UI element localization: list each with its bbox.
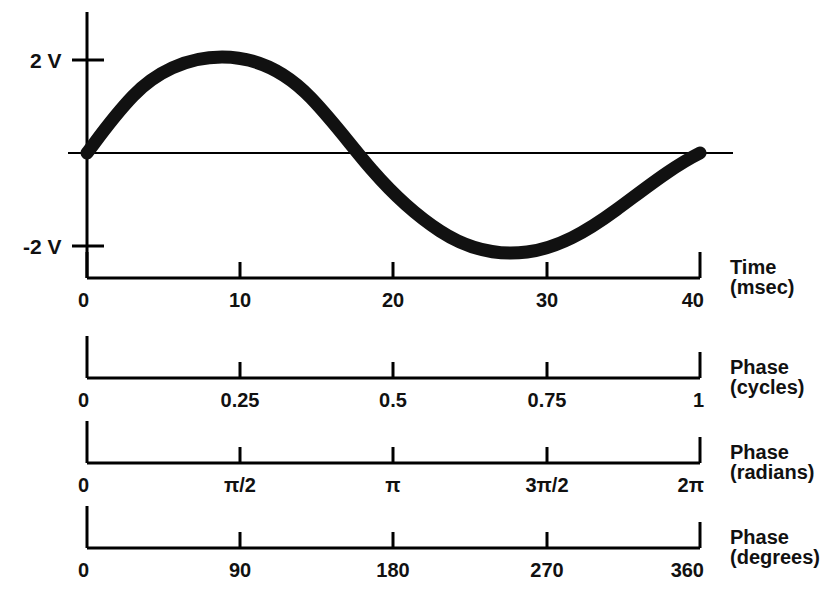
cycles-tick-label-1: 1 [693,390,704,410]
axis-caption-phase-radians: Phase (radians) [730,442,814,482]
voltage-label-minus2: -2 V [23,236,62,257]
axis-caption-degrees-line2: (degrees) [730,547,820,567]
radians-tick-label-pi-over-2: π/2 [224,475,256,495]
plot-canvas [0,0,840,600]
sine-wave-trace [87,57,700,253]
axis-caption-phase-cycles: Phase (cycles) [730,357,805,397]
radians-tick-label-3pi-over-2: 3π/2 [525,475,568,495]
degrees-tick-label-0: 0 [78,560,89,580]
axis-caption-cycles-line1: Phase [730,357,805,377]
degrees-tick-label-90: 90 [229,560,251,580]
cycles-tick-label-0: 0 [78,390,89,410]
time-tick-label-30: 30 [536,290,558,310]
degrees-tick-label-360: 360 [671,560,704,580]
cycles-tick-label-075: 0.75 [528,390,567,410]
time-tick-label-20: 20 [382,290,404,310]
degrees-tick-label-180: 180 [376,560,409,580]
axis-caption-degrees-line1: Phase [730,527,820,547]
axis-caption-radians-line2: (radians) [730,462,814,482]
time-tick-label-0: 0 [78,290,89,310]
radians-tick-label-0: 0 [78,475,89,495]
axis-caption-phase-degrees: Phase (degrees) [730,527,820,567]
radians-tick-label-pi: π [385,475,400,495]
radians-tick-label-2pi: 2π [678,475,704,495]
degrees-tick-label-270: 270 [530,560,563,580]
axis-caption-time-line1: Time [730,257,794,277]
axis-caption-radians-line1: Phase [730,442,814,462]
cycles-tick-label-05: 0.5 [379,390,407,410]
axis-caption-cycles-line2: (cycles) [730,377,805,397]
time-tick-label-40: 40 [682,290,704,310]
axis-caption-time-line2: (msec) [730,277,794,297]
time-tick-label-10: 10 [229,290,251,310]
voltage-label-plus2: 2 V [30,50,62,71]
axis-caption-time: Time (msec) [730,257,794,297]
cycles-tick-label-025: 0.25 [221,390,260,410]
sine-wave-figure: 2 V -2 V 0 10 20 30 40 0 0.25 0.5 0.75 1… [0,0,840,600]
